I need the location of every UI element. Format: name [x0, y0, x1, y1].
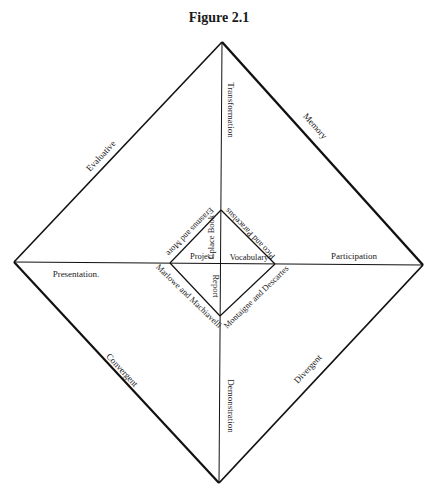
label-montaigne-and-descartes: Montaigne and Descartes [221, 263, 290, 330]
label-convergent: Convergent [104, 351, 140, 389]
vertical-axis [219, 42, 222, 483]
label-transformation: Transformation [226, 82, 236, 138]
label-demonstration: Demonstration [226, 379, 236, 433]
label-vocabulary: Vocabulary [230, 252, 269, 262]
diamond-diagram: Evaluative Memory Convergent Divergent T… [0, 0, 438, 495]
label-evaluative: Evaluative [84, 138, 118, 173]
label-presentation: Presentation. [53, 269, 100, 279]
label-participation: Participation [331, 251, 377, 261]
label-memory: Memory [301, 111, 330, 141]
horizontal-axis [14, 262, 423, 265]
label-divergent: Divergent [292, 352, 324, 385]
axes [14, 42, 423, 483]
label-project: Project [190, 251, 215, 261]
label-report: Report [211, 274, 221, 298]
